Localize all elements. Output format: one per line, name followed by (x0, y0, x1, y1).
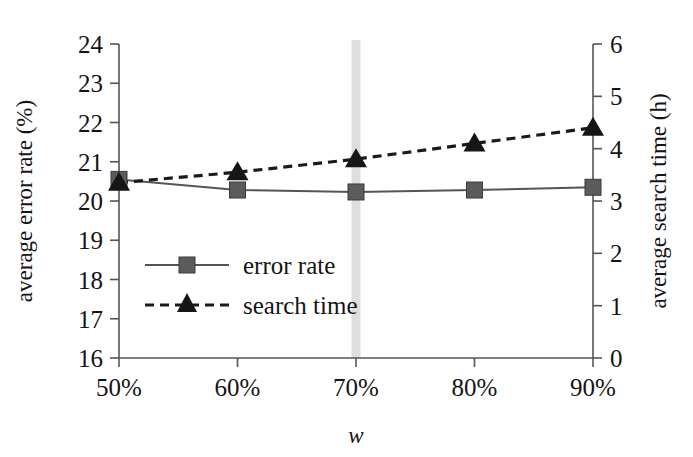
left-tick-label-21: 21 (78, 149, 103, 176)
x-tick-label-70%: 70% (333, 374, 379, 401)
dual-axis-line-chart: 161718192021222324 0123456 50%60%70%80%9… (0, 0, 693, 457)
data-point-error-rate-70% (348, 184, 364, 200)
legend-marker-square-icon (179, 257, 195, 273)
right-axis-ticks (593, 44, 602, 358)
x-axis-title: w (348, 423, 364, 448)
right-tick-label-2: 2 (610, 240, 623, 267)
x-tick-label-90%: 90% (570, 374, 616, 401)
right-axis-tick-labels: 0123456 (610, 31, 623, 372)
right-axis-title: average search time (h) (646, 93, 671, 308)
data-point-search-time-90% (582, 117, 604, 136)
left-tick-label-20: 20 (78, 188, 103, 215)
legend-label-error-rate: error rate (243, 252, 335, 279)
left-tick-label-19: 19 (78, 227, 103, 254)
x-tick-label-50%: 50% (96, 374, 142, 401)
right-tick-label-5: 5 (610, 83, 623, 110)
left-tick-label-16: 16 (78, 345, 103, 372)
right-tick-label-3: 3 (610, 188, 623, 215)
data-point-error-rate-80% (467, 182, 483, 198)
right-tick-label-1: 1 (610, 293, 623, 320)
left-tick-label-22: 22 (78, 110, 103, 137)
legend-marker-triangle-icon (177, 293, 197, 312)
left-tick-label-17: 17 (78, 306, 103, 333)
data-point-error-rate-90% (585, 179, 601, 195)
chart-container: 161718192021222324 0123456 50%60%70%80%9… (0, 0, 693, 457)
chart-legend: error rate search time (145, 252, 358, 319)
left-tick-label-18: 18 (78, 267, 103, 294)
x-tick-label-60%: 60% (215, 374, 261, 401)
left-axis-tick-labels: 161718192021222324 (78, 31, 104, 372)
left-tick-label-24: 24 (78, 31, 104, 58)
data-point-error-rate-60% (230, 182, 246, 198)
left-tick-label-23: 23 (78, 70, 103, 97)
left-axis-title: average error rate (%) (12, 100, 37, 302)
legend-item-search-time[interactable]: search time (145, 292, 358, 319)
legend-label-search-time: search time (243, 292, 358, 319)
x-tick-label-80%: 80% (452, 374, 498, 401)
legend-item-error-rate[interactable]: error rate (145, 252, 335, 279)
right-tick-label-0: 0 (610, 345, 623, 372)
x-axis-ticks (119, 358, 593, 367)
left-axis-ticks (110, 44, 119, 358)
x-axis-tick-labels: 50%60%70%80%90% (96, 374, 616, 401)
right-tick-label-6: 6 (610, 31, 623, 58)
right-tick-label-4: 4 (610, 136, 623, 163)
